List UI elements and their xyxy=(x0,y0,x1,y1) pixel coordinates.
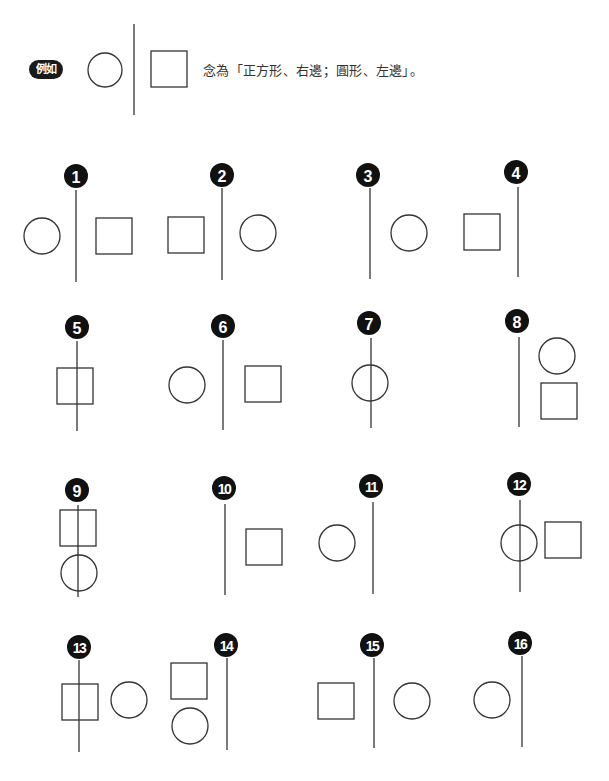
number-badge: 13 xyxy=(67,635,91,659)
exercise-item: 8 xyxy=(505,309,577,427)
exercise-item: 3 xyxy=(356,163,427,279)
number-badge: 7 xyxy=(357,311,381,335)
number-badge: 16 xyxy=(508,631,532,655)
square-shape xyxy=(151,51,187,87)
exercise-item: 1 xyxy=(24,164,132,282)
circle-shape xyxy=(169,367,205,403)
number-label: 8 xyxy=(513,314,522,331)
circle-shape xyxy=(352,365,388,401)
circle-shape xyxy=(88,53,122,87)
square-shape xyxy=(318,683,354,719)
number-label: 11 xyxy=(365,479,379,495)
square-shape xyxy=(62,684,98,720)
exercise-item: 11 xyxy=(319,474,383,594)
number-badge: 12 xyxy=(507,472,531,496)
exercise-item: 7 xyxy=(352,311,388,428)
number-badge: 9 xyxy=(65,478,89,502)
square-shape xyxy=(541,383,577,419)
number-label: 12 xyxy=(513,477,527,493)
number-badge: 1 xyxy=(64,164,88,188)
exercise-item: 16 xyxy=(474,631,532,747)
circle-shape xyxy=(319,525,355,561)
square-shape xyxy=(464,214,500,250)
exercise-grid: 12345678910111213141516 xyxy=(24,160,581,752)
exercise-item: 14 xyxy=(171,633,238,750)
circle-shape xyxy=(240,215,276,251)
exercise-item: 13 xyxy=(62,635,147,752)
circle-shape xyxy=(24,218,60,254)
exercise-item: 12 xyxy=(501,472,581,592)
number-badge: 8 xyxy=(505,309,529,333)
number-label: 1 xyxy=(72,169,81,186)
number-label: 16 xyxy=(514,636,528,652)
square-shape xyxy=(57,368,93,404)
number-badge: 14 xyxy=(214,633,238,657)
number-badge: 11 xyxy=(359,474,383,498)
number-badge: 4 xyxy=(504,160,528,184)
square-shape xyxy=(171,663,207,699)
number-label: 6 xyxy=(219,319,228,336)
number-label: 10 xyxy=(218,481,232,497)
number-label: 2 xyxy=(218,168,227,185)
square-shape xyxy=(96,218,132,254)
exercise-item: 5 xyxy=(57,315,93,431)
circle-shape xyxy=(172,708,208,744)
number-badge: 10 xyxy=(212,476,236,500)
exercise-item: 15 xyxy=(318,633,430,748)
exercise-item: 10 xyxy=(212,476,282,595)
number-label: 3 xyxy=(364,168,373,185)
number-badge: 3 xyxy=(356,163,380,187)
exercise-item: 4 xyxy=(464,160,528,277)
circle-shape xyxy=(394,683,430,719)
square-shape xyxy=(245,366,281,402)
example-figure xyxy=(88,24,187,115)
number-label: 13 xyxy=(73,640,87,656)
square-shape xyxy=(246,529,282,565)
number-badge: 2 xyxy=(210,163,234,187)
number-label: 14 xyxy=(220,638,234,654)
square-shape xyxy=(168,217,204,253)
exercise-item: 2 xyxy=(168,163,276,280)
circle-shape xyxy=(539,338,575,374)
number-badge: 15 xyxy=(360,633,384,657)
number-badge: 5 xyxy=(65,315,89,339)
shapes-figure: 12345678910111213141516 xyxy=(0,0,609,781)
circle-shape xyxy=(391,215,427,251)
circle-shape xyxy=(474,682,510,718)
circle-shape xyxy=(111,682,147,718)
number-label: 4 xyxy=(512,165,521,182)
exercise-item: 6 xyxy=(169,314,281,430)
number-badge: 6 xyxy=(211,314,235,338)
exercise-item: 9 xyxy=(60,478,97,597)
circle-shape xyxy=(501,525,537,561)
circle-shape xyxy=(61,555,97,591)
number-label: 9 xyxy=(73,483,82,500)
number-label: 7 xyxy=(365,316,374,333)
number-label: 5 xyxy=(73,320,82,337)
square-shape xyxy=(545,522,581,558)
number-label: 15 xyxy=(366,638,380,654)
